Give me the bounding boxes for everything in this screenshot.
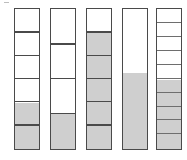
segment-divider (87, 101, 111, 103)
fraction-bar-fill (15, 103, 39, 149)
segment-divider (15, 101, 39, 103)
fraction-bar-fill (51, 114, 75, 149)
segment-divider (157, 50, 181, 51)
fraction-bar (50, 8, 76, 150)
segment-divider (87, 55, 111, 57)
segment-divider (87, 78, 111, 80)
fraction-bar (122, 8, 148, 150)
fraction-bar (156, 8, 182, 150)
segment-divider (51, 113, 75, 115)
segment-divider (15, 55, 39, 57)
segment-divider (51, 43, 75, 45)
fraction-bar (14, 8, 40, 150)
segment-divider (157, 106, 181, 107)
segment-divider (87, 31, 111, 33)
segment-divider (157, 92, 181, 93)
fraction-bar (86, 8, 112, 150)
segment-divider (87, 124, 111, 126)
fraction-bar-fill (87, 33, 111, 149)
segment-divider (15, 78, 39, 80)
fraction-bar-fill (157, 80, 181, 150)
segment-divider (51, 78, 75, 80)
segment-divider (157, 64, 181, 65)
segment-divider (15, 124, 39, 126)
segment-divider (157, 36, 181, 37)
segment-divider (157, 119, 181, 120)
segment-divider (15, 31, 39, 33)
fraction-bar-fill (123, 73, 147, 149)
segment-divider (157, 22, 181, 23)
segment-divider (157, 133, 181, 134)
fraction-bars-diagram (0, 0, 187, 160)
segment-divider (157, 78, 181, 79)
tick-mark-icon (4, 2, 9, 3)
